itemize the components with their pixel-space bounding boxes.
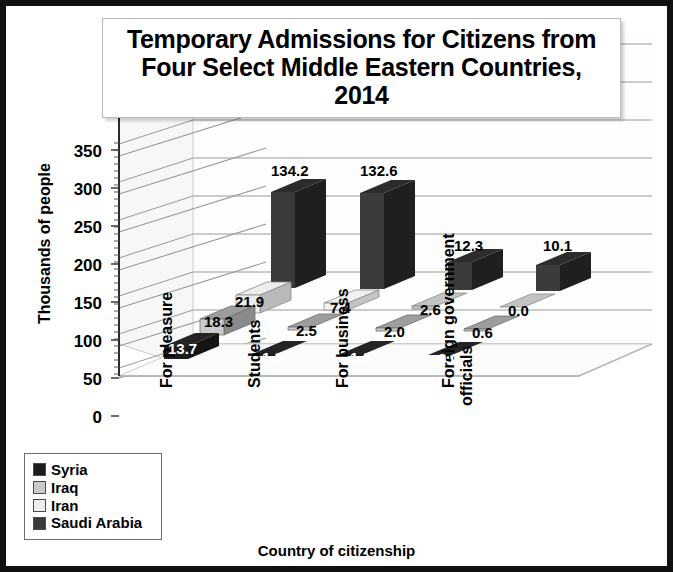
bar-face bbox=[271, 192, 295, 288]
data-label-iraq-students: 2.5 bbox=[296, 322, 317, 339]
x-axis-title: Country of citizenship bbox=[6, 542, 667, 559]
data-label-saudi-students: 132.6 bbox=[360, 162, 398, 179]
legend: Syria Iraq Iran Saudi Arabia bbox=[24, 453, 162, 540]
data-label-saudi-foreign-gov: 10.1 bbox=[543, 237, 572, 254]
y-tick-200: 200 bbox=[48, 257, 102, 274]
chart-title-line-2: Four Select Middle Eastern Countries, bbox=[107, 53, 616, 81]
legend-swatch-syria-icon bbox=[33, 463, 46, 476]
y-tick-300: 300 bbox=[48, 181, 102, 198]
legend-item-iran[interactable]: Iran bbox=[33, 498, 155, 514]
data-label-iraq-for-pleasure: 18.3 bbox=[204, 313, 233, 330]
data-label-iran-students: 7.4 bbox=[330, 299, 351, 316]
data-label-syria-for-pleasure: 13.7 bbox=[168, 340, 197, 357]
data-label-iraq-for-business: 2.0 bbox=[384, 323, 405, 340]
data-label-iran-for-pleasure: 21.9 bbox=[235, 293, 264, 310]
data-label-iran-foreign-gov: 0.0 bbox=[508, 302, 529, 319]
x-category-foreign-gov-line2: officials bbox=[458, 346, 475, 406]
data-label-iran-for-business: 2.6 bbox=[420, 301, 441, 318]
data-label-syria-for-business: 1.6 bbox=[350, 349, 371, 366]
bar-side bbox=[295, 179, 326, 288]
legend-swatch-iraq-icon bbox=[33, 481, 46, 494]
y-tick-250: 250 bbox=[48, 219, 102, 236]
legend-item-saudi-arabia[interactable]: Saudi Arabia bbox=[33, 515, 155, 531]
legend-label-iran: Iran bbox=[51, 498, 79, 514]
y-tick-100: 100 bbox=[48, 333, 102, 350]
legend-swatch-saudi-arabia-icon bbox=[33, 517, 46, 530]
legend-label-saudi-arabia: Saudi Arabia bbox=[51, 515, 142, 531]
data-label-syria-students: 1.3 bbox=[262, 349, 283, 366]
data-label-syria-foreign-gov: 0.0 bbox=[438, 350, 459, 367]
chart-title-line-3: 2014 bbox=[107, 81, 616, 109]
bar-face bbox=[536, 265, 560, 291]
y-axis-title: Thousands of people bbox=[36, 163, 54, 324]
y-tick-350: 350 bbox=[48, 143, 102, 160]
y-tick-150: 150 bbox=[48, 295, 102, 312]
data-label-iraq-foreign-gov: 0.6 bbox=[472, 324, 493, 341]
x-category-foreign-gov-line2-wrap: officials bbox=[458, 346, 476, 406]
chart-title-line-1: Temporary Admissions for Citizens from bbox=[107, 25, 616, 53]
data-label-saudi-for-pleasure: 134.2 bbox=[271, 162, 309, 179]
y-tick-50: 50 bbox=[48, 371, 102, 388]
bar-face bbox=[360, 193, 384, 289]
legend-item-syria[interactable]: Syria bbox=[33, 462, 155, 478]
chart-container: Temporary Admissions for Citizens from F… bbox=[0, 0, 673, 572]
legend-swatch-iran-icon bbox=[33, 499, 46, 512]
chart-title: Temporary Admissions for Citizens from F… bbox=[102, 18, 621, 118]
bar-side bbox=[384, 180, 415, 289]
data-label-saudi-for-business: 12.3 bbox=[454, 237, 483, 254]
legend-item-iraq[interactable]: Iraq bbox=[33, 480, 155, 496]
legend-label-syria: Syria bbox=[51, 462, 88, 478]
y-tick-0: 0 bbox=[48, 409, 102, 426]
legend-label-iraq: Iraq bbox=[51, 480, 79, 496]
